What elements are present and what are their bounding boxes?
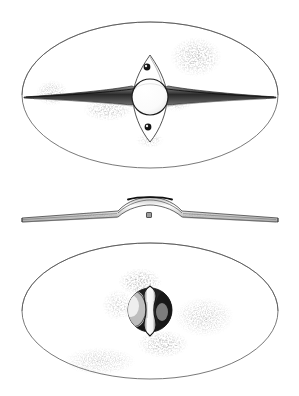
rivet-upper-highlight — [145, 65, 147, 67]
stipple-lower-left — [64, 347, 136, 375]
shield-illustration-svg — [0, 0, 299, 396]
profile-grip-square — [147, 213, 152, 218]
rivet-upper — [144, 64, 151, 71]
rivet-lower — [145, 124, 152, 131]
rivet-lower-highlight — [146, 125, 148, 127]
front-boss-dome — [132, 79, 168, 115]
cavity-right-highlight — [156, 303, 168, 321]
profile-stipple-left — [68, 211, 120, 219]
rear-handgrip — [144, 286, 156, 336]
profile-stipple-right — [176, 211, 224, 219]
stipple-right-cavity — [174, 297, 234, 337]
stipple-left-spine — [36, 80, 68, 106]
stipple-below-cavity — [137, 330, 189, 358]
stipple-upper-right — [170, 37, 222, 77]
illustration-plate — [0, 0, 299, 396]
